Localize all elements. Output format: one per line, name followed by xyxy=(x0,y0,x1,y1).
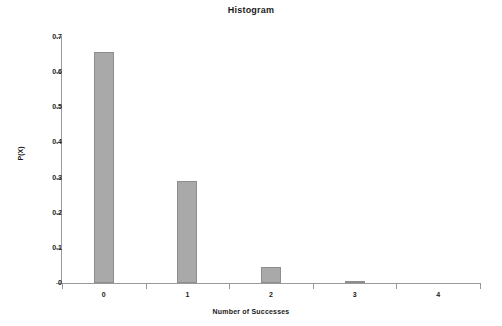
x-tick-label: 2 xyxy=(251,291,291,298)
y-axis-title: P(X) xyxy=(17,124,24,184)
x-tick-label: 1 xyxy=(167,291,207,298)
x-axis-title: Number of Successes xyxy=(0,308,502,315)
y-tick-label: 0.1 xyxy=(10,244,62,251)
histogram-figure: Histogram 0.70.60.50.40.30.20.10 P(X) 01… xyxy=(0,0,502,326)
bars-layer xyxy=(62,37,480,283)
x-tick-mark xyxy=(480,284,481,289)
y-axis-ticks: 0.70.60.50.40.30.20.10 xyxy=(0,0,62,326)
x-tick-mark xyxy=(62,284,63,289)
x-axis-line xyxy=(61,283,481,284)
bar xyxy=(177,181,197,283)
x-tick-label: 3 xyxy=(335,291,375,298)
x-tick-mark xyxy=(146,284,147,289)
y-tick-label: 0.2 xyxy=(10,209,62,216)
x-tick-mark xyxy=(229,284,230,289)
x-tick-mark xyxy=(313,284,314,289)
x-tick-label: 0 xyxy=(84,291,124,298)
x-tick-label: 4 xyxy=(418,291,458,298)
x-tick-mark xyxy=(396,284,397,289)
bar xyxy=(94,52,114,283)
bar xyxy=(261,267,281,283)
y-tick-label: 0.5 xyxy=(10,103,62,110)
chart-title: Histogram xyxy=(0,5,502,15)
bar xyxy=(345,281,365,283)
y-tick-label: 0.6 xyxy=(10,68,62,75)
y-tick-label: 0.7 xyxy=(10,33,62,40)
y-tick-label: 0 xyxy=(10,279,62,286)
